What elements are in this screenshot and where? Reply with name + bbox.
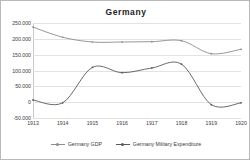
legend-item-label: Germany Military Expenditure <box>133 141 201 147</box>
data-point-marker <box>210 104 212 106</box>
data-point-marker <box>181 63 183 65</box>
chart-title: Germany <box>1 7 250 17</box>
y-axis-tick-labels: 250.000200.000150.000100.00050.0000-50.0… <box>1 23 31 118</box>
series-gdp <box>32 26 242 54</box>
data-point-marker <box>32 26 34 28</box>
data-point-marker <box>92 66 94 68</box>
chart-legend: Germany GDPGermany Military Expenditure <box>1 141 250 147</box>
legend-item-gdp[interactable]: Germany GDP <box>51 141 102 147</box>
x-axis-tick-label: 1915 <box>87 120 99 126</box>
y-axis-tick-label: 0 <box>1 99 31 105</box>
data-point-marker <box>121 72 123 74</box>
data-point-marker <box>92 41 94 43</box>
series-line <box>33 62 241 107</box>
x-axis-tick-label: 1917 <box>146 120 158 126</box>
x-axis-tick-label: 1914 <box>57 120 69 126</box>
chart-container: Germany 250.000200.000150.000100.00050.0… <box>0 0 250 160</box>
data-point-marker <box>210 53 212 55</box>
data-point-marker <box>62 102 64 104</box>
legend-item-label: Germany GDP <box>68 141 102 147</box>
legend-item-military[interactable]: Germany Military Expenditure <box>116 141 201 147</box>
x-axis-tick-label: 1919 <box>206 120 218 126</box>
data-point-marker <box>240 48 242 50</box>
data-point-marker <box>62 36 64 38</box>
y-axis-tick-label: 200.000 <box>1 36 31 42</box>
data-point-marker <box>240 102 242 104</box>
series-line <box>33 27 241 54</box>
y-axis-tick-label: 50.000 <box>1 83 31 89</box>
series-military <box>32 62 242 107</box>
y-axis-tick-label: 100.000 <box>1 68 31 74</box>
data-point-marker <box>151 41 153 43</box>
data-point-marker <box>32 99 34 101</box>
x-axis-tick-labels: 19131914191519161917191819191920 <box>33 120 241 130</box>
y-axis-tick-label: 150.000 <box>1 52 31 58</box>
x-axis-tick-label: 1913 <box>27 120 39 126</box>
x-axis-tick-label: 1916 <box>116 120 128 126</box>
plot-area <box>33 23 241 118</box>
x-axis-tick-label: 1918 <box>176 120 188 126</box>
x-axis-tick-label: 1920 <box>235 120 247 126</box>
data-point-marker <box>181 40 183 42</box>
data-point-marker <box>121 41 123 43</box>
line-marker-icon <box>116 141 130 147</box>
series-layer <box>33 23 241 118</box>
y-axis-tick-label: 250.000 <box>1 20 31 26</box>
line-marker-icon <box>51 141 65 147</box>
gridline <box>33 118 241 119</box>
data-point-marker <box>151 67 153 69</box>
